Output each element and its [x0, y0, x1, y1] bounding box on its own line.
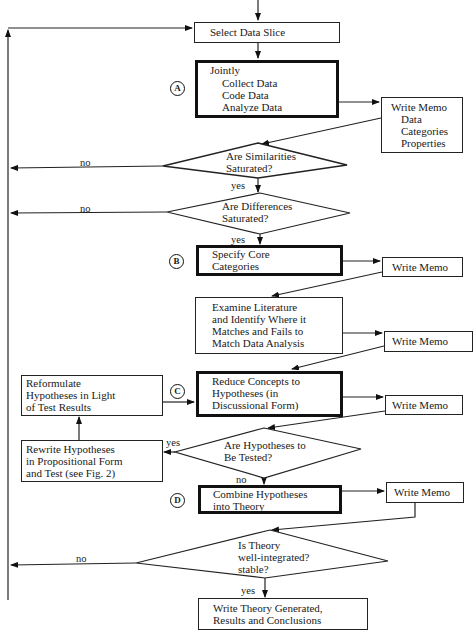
memo1-line: Data: [401, 113, 422, 126]
integrated-no-label: no: [76, 553, 87, 564]
rewrite-line: Rewrite Hypotheses: [26, 443, 115, 456]
combine-line: into Theory: [213, 500, 264, 513]
reformulate-line: of Test Results: [26, 401, 91, 414]
rewrite-line: in Propositional Form: [26, 455, 123, 468]
integrated-line: well-integrated?: [238, 551, 309, 564]
reformulate-line: Reformulate: [26, 377, 81, 390]
tested-no-label: no: [236, 474, 247, 485]
memo5-label: Write Memo: [394, 486, 450, 499]
differences-no-label: no: [80, 203, 91, 214]
marker-b: B: [169, 254, 184, 269]
differences-yes-label: yes: [231, 234, 245, 245]
differences-line: Saturated?: [222, 212, 268, 225]
memo2-label: Write Memo: [392, 261, 448, 274]
jointly-line: Code Data: [222, 89, 269, 102]
memo1-line: Categories: [401, 125, 448, 138]
memo3-label: Write Memo: [392, 335, 448, 348]
integrated-yes-label: yes: [241, 585, 255, 596]
final-line: Write Theory Generated,: [213, 602, 323, 615]
tested-line: Are Hypotheses to: [224, 439, 306, 452]
similarities-line: Saturated?: [226, 162, 272, 175]
core-line: Categories: [212, 260, 259, 273]
memo1-line: Properties: [401, 137, 446, 150]
marker-a: A: [170, 81, 185, 96]
rewrite-line: and Test (see Fig. 2): [26, 467, 115, 480]
reduce-line: Discussional Form): [212, 399, 298, 412]
tested-yes-label: yes: [166, 437, 180, 448]
literature-line: Examine Literature: [212, 301, 297, 314]
jointly-line: Collect Data: [222, 77, 277, 90]
core-line: Specify Core: [212, 248, 270, 261]
similarities-no-label: no: [80, 157, 91, 168]
similarities-line: Are Similarities: [226, 150, 296, 163]
reduce-line: Hypotheses (in: [212, 387, 278, 400]
literature-line: Match Data Analysis: [212, 337, 304, 350]
reformulate-line: Hypotheses in Light: [26, 389, 115, 402]
similarities-yes-label: yes: [231, 180, 245, 191]
reduce-line: Reduce Concepts to: [212, 375, 300, 388]
literature-line: and Identify Where it: [212, 313, 306, 326]
differences-line: Are Differences: [222, 200, 292, 213]
final-line: Results and Conclusions: [213, 614, 321, 627]
integrated-line: stable?: [238, 563, 269, 576]
literature-line: Matches and Fails to: [212, 325, 303, 338]
memo4-label: Write Memo: [392, 399, 448, 412]
tested-line: Be Tested?: [224, 451, 272, 464]
jointly-line: Jointly: [210, 64, 240, 77]
memo1-line: Write Memo: [391, 101, 447, 114]
select-data-slice-label: Select Data Slice: [210, 26, 285, 39]
integrated-line: Is Theory: [238, 539, 280, 552]
combine-line: Combine Hypotheses: [213, 488, 307, 501]
marker-c: C: [170, 384, 185, 399]
marker-d: D: [170, 493, 185, 508]
jointly-line: Analyze Data: [222, 101, 282, 114]
